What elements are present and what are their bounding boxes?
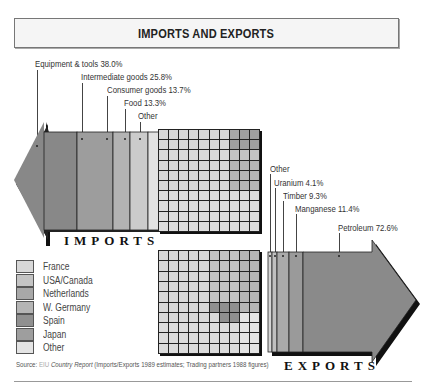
waffle-cell [189,251,198,260]
waffle-cell [199,222,208,231]
waffle-cell [210,303,219,312]
waffle-cell [210,292,219,301]
legend-item-usa-canada: USA/Canada [16,274,101,288]
waffle-cell [230,303,239,312]
exports-label-timber: Timber 9.3% [283,190,327,201]
legend: France USA/Canada Netherlands W. Germany… [16,260,101,355]
waffle-cell [159,212,168,221]
waffle-cell [250,150,259,159]
waffle-cell [179,150,188,159]
waffle-cell [169,272,178,281]
waffle-cell [199,303,208,312]
waffle-cell [189,130,198,139]
waffle-cell [240,333,249,342]
waffle-cell [199,201,208,210]
waffle-cell [179,201,188,210]
waffle-cell [220,171,229,180]
waffle-cell [179,161,188,170]
waffle-cell [240,282,249,291]
waffle-cell [240,191,249,200]
waffle-cell [169,333,178,342]
waffle-cell [199,251,208,260]
source-report: Country Report [51,360,93,369]
waffle-cell [230,323,239,332]
waffle-cell [220,333,229,342]
waffle-cell [220,201,229,210]
exports-label-uranium: Uranium 4.1% [274,177,323,188]
legend-label: Other [43,342,64,353]
legend-label: Netherlands [43,288,89,299]
legend-item-spain: Spain [16,314,101,328]
waffle-cell [250,292,259,301]
waffle-cell [169,201,178,210]
waffle-cell [250,201,259,210]
waffle-cell [220,181,229,190]
marker-dot [274,255,276,257]
waffle-cell [159,323,168,332]
waffle-cell [169,222,178,231]
imports-label-intermediate: Intermediate goods 25.8% [81,71,172,82]
marker-dot [139,138,141,140]
waffle-cell [250,130,259,139]
imports-partners-waffle [158,129,260,232]
waffle-cell [189,303,198,312]
waffle-cell [199,344,208,353]
waffle-cell [240,222,249,231]
waffle-cell [179,323,188,332]
waffle-cell [169,171,178,180]
waffle-cell [169,150,178,159]
waffle-cell [179,191,188,200]
waffle-cell [199,212,208,221]
waffle-cell [189,191,198,200]
waffle-cell [210,222,219,231]
exports-partners-waffle [158,250,260,354]
waffle-cell [230,344,239,353]
legend-label: Japan [43,329,66,340]
legend-label: USA/Canada [43,275,93,286]
waffle-cell [179,212,188,221]
waffle-cell [210,251,219,260]
waffle-cell [179,303,188,312]
marker-dot [269,255,271,257]
legend-item-w-germany: W. Germany [16,301,101,315]
legend-label: Spain [43,315,65,326]
source-publisher: EIU [39,360,49,369]
waffle-cell [189,323,198,332]
waffle-cell [230,130,239,139]
waffle-cell [199,150,208,159]
waffle-cell [210,191,219,200]
waffle-cell [220,313,229,322]
waffle-cell [189,282,198,291]
waffle-cell [230,261,239,270]
marker-dot [338,255,340,257]
waffle-cell [179,292,188,301]
waffle-cell [199,130,208,139]
waffle-cell [220,212,229,221]
waffle-cell [199,161,208,170]
waffle-cell [159,161,168,170]
waffle-cell [159,282,168,291]
waffle-cell [230,333,239,342]
waffle-cell [179,282,188,291]
waffle-cell [230,212,239,221]
bottom-rule [14,381,412,382]
waffle-cell [169,303,178,312]
waffle-cell [189,272,198,281]
waffle-cell [220,272,229,281]
waffle-cell [159,222,168,231]
waffle-cell [250,212,259,221]
waffle-cell [240,251,249,260]
marker-dot [36,145,38,147]
waffle-cell [189,313,198,322]
waffle-cell [240,272,249,281]
waffle-cell [169,313,178,322]
waffle-cell [199,333,208,342]
waffle-cell [169,251,178,260]
chart-title: IMPORTS AND EXPORTS [138,26,274,41]
waffle-cell [210,313,219,322]
marker-dot [106,138,108,140]
waffle-cell [240,303,249,312]
waffle-cell [179,344,188,353]
imports-label-consumer: Consumer goods 13.7% [107,84,191,95]
waffle-cell [250,272,259,281]
